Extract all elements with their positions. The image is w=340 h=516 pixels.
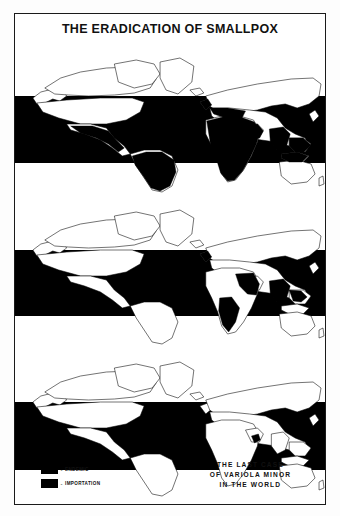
world-map-1-svg xyxy=(15,46,325,194)
annotation-line-2: OF VARIOLA MINOR xyxy=(210,470,291,480)
figure-frame: THE ERADICATION OF SMALLPOX xyxy=(14,13,326,505)
legend-dash: - xyxy=(58,481,65,487)
legend-label-importation: IMPORTATION xyxy=(65,481,100,486)
map-panel-2 xyxy=(15,198,325,346)
importation-swatch xyxy=(41,479,58,488)
legend-dash: - xyxy=(58,467,65,473)
legend-item-endemic: - ENDEMIC xyxy=(41,464,171,475)
map-panel-1 xyxy=(15,46,325,194)
world-map-2-svg xyxy=(15,198,325,346)
last-case-annotation: THE LAST CASE OF VARIOLA MINOR IN THE WO… xyxy=(210,460,291,490)
annotation-line-3: IN THE WORLD xyxy=(210,480,291,490)
world-map-2 xyxy=(15,198,325,346)
legend-item-importation: - IMPORTATION xyxy=(41,478,171,489)
endemic-swatch xyxy=(41,465,58,474)
figure-title: THE ERADICATION OF SMALLPOX xyxy=(15,22,325,36)
annotation-line-1: THE LAST CASE xyxy=(210,460,291,470)
legend: - ENDEMIC - IMPORTATION xyxy=(41,464,171,492)
world-map-1 xyxy=(15,46,325,194)
legend-label-endemic: ENDEMIC xyxy=(65,467,89,472)
